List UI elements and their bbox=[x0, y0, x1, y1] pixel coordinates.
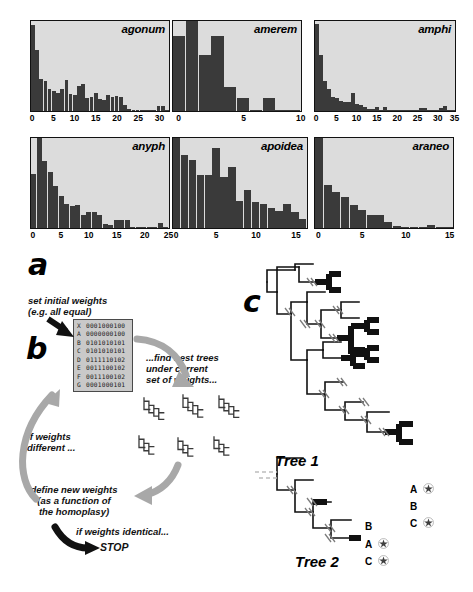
star-icon-tree1-A bbox=[423, 483, 434, 494]
histogram-bar bbox=[399, 110, 403, 111]
histogram-bar bbox=[250, 110, 262, 111]
x-axis-araneo: 051015 bbox=[314, 229, 454, 243]
histogram-bar bbox=[341, 197, 349, 228]
histogram-bar bbox=[367, 215, 375, 228]
axis-tick-label: 20 bbox=[392, 113, 401, 123]
histogram-bar bbox=[315, 138, 323, 228]
plot-area-apoidea: apoidea bbox=[172, 137, 308, 229]
histogram-bar bbox=[410, 227, 418, 228]
histogram-bar bbox=[64, 204, 69, 228]
histogram-bar bbox=[59, 196, 64, 228]
histogram-bar bbox=[48, 89, 52, 111]
histogram-bar bbox=[140, 110, 144, 111]
histogram-bar bbox=[31, 25, 35, 111]
axis-tick-label: 5 bbox=[51, 113, 56, 123]
star-icon-tree2-C bbox=[378, 555, 389, 566]
histogram-bar bbox=[335, 98, 339, 112]
histogram-bar bbox=[127, 109, 131, 111]
x-axis-agonum: 051015202530 bbox=[30, 112, 170, 126]
histogram-bar bbox=[108, 225, 113, 228]
histogram-bar bbox=[147, 227, 152, 228]
histogram-bar bbox=[173, 36, 185, 111]
histogram-bar bbox=[158, 223, 163, 228]
histogram-bar bbox=[132, 110, 136, 111]
histogram-bar bbox=[299, 219, 306, 228]
tree2-gray-branches bbox=[255, 472, 277, 478]
histogram-bar bbox=[69, 94, 73, 111]
histogram-bar bbox=[125, 220, 130, 228]
histogram-bar bbox=[211, 36, 223, 111]
histogram-bar bbox=[212, 148, 219, 228]
tree1-taxon-C: C bbox=[410, 518, 417, 529]
histogram-amphi: amphi 05101520253035 bbox=[314, 20, 456, 126]
histogram-bar bbox=[435, 110, 439, 111]
histogram-bar bbox=[56, 93, 60, 111]
histogram-araneo: araneo 051015 bbox=[314, 137, 454, 243]
axis-tick-label: 0 bbox=[174, 230, 179, 240]
histogram-bar bbox=[339, 101, 343, 111]
histogram-bar bbox=[197, 175, 204, 228]
histogram-bar bbox=[161, 106, 165, 111]
histogram-bar bbox=[387, 110, 391, 111]
histogram-bar bbox=[73, 95, 77, 111]
histogram-bar bbox=[53, 186, 58, 228]
axis-tick-label: 0 bbox=[30, 230, 35, 240]
histogram-bar bbox=[106, 95, 110, 111]
tree2-taxon-B: B bbox=[365, 521, 372, 532]
x-axis-amerem: 0510 bbox=[172, 112, 302, 126]
histogram-title-amphi: amphi bbox=[418, 23, 451, 35]
histogram-title-amerem: amerem bbox=[254, 23, 297, 35]
histogram-bar bbox=[419, 108, 423, 111]
histogram-bar bbox=[350, 205, 358, 228]
histogram-bar bbox=[97, 215, 102, 228]
histogram-bar bbox=[86, 212, 91, 228]
plot-area-amphi: amphi bbox=[314, 20, 456, 112]
star-icon-tree2-A bbox=[378, 538, 389, 549]
histogram-bar bbox=[263, 98, 275, 112]
histogram-bar bbox=[268, 208, 275, 228]
histogram-title-anyph: anyph bbox=[132, 140, 165, 152]
axis-tick-label: 10 bbox=[352, 113, 361, 123]
x-axis-amphi: 05101520253035 bbox=[314, 112, 456, 126]
histogram-bar bbox=[114, 220, 119, 228]
histogram-title-apoidea: apoidea bbox=[261, 140, 303, 152]
axis-tick-label: 15 bbox=[291, 230, 300, 240]
axis-tick-label: 5 bbox=[214, 230, 219, 240]
histogram-bar bbox=[44, 81, 48, 111]
histogram-bar bbox=[136, 110, 140, 111]
histogram-bar bbox=[189, 160, 196, 228]
axis-tick-label: 0 bbox=[30, 113, 35, 123]
axis-tick-label: 0 bbox=[176, 113, 181, 123]
axis-tick-label: 10 bbox=[70, 113, 79, 123]
arrow-newweights-to-matrix bbox=[23, 389, 60, 499]
arrow-matrix-to-search bbox=[137, 339, 194, 387]
histogram-bar bbox=[65, 80, 69, 112]
histogram-bar bbox=[331, 97, 335, 111]
histogram-bar bbox=[31, 174, 36, 228]
histogram-bar bbox=[427, 225, 435, 228]
histogram-bar bbox=[315, 24, 319, 111]
histogram-bar bbox=[111, 97, 115, 111]
histogram-bar bbox=[98, 99, 102, 111]
axis-tick-label: 15 bbox=[372, 113, 381, 123]
histogram-bar bbox=[152, 227, 157, 228]
histogram-bar bbox=[319, 55, 323, 111]
histogram-bar bbox=[39, 79, 43, 111]
histogram-bar bbox=[444, 227, 452, 228]
axis-tick-label: 5 bbox=[241, 113, 246, 123]
histogram-bar bbox=[37, 138, 42, 228]
histogram-bar bbox=[163, 227, 168, 228]
axis-tick-label: 5 bbox=[334, 113, 339, 123]
histogram-bar bbox=[119, 220, 124, 228]
histogram-bar bbox=[384, 222, 392, 228]
axis-tick-label: 10 bbox=[401, 230, 410, 240]
axis-tick-label: 25 bbox=[133, 113, 142, 123]
histogram-agonum: agonum 051015202530 bbox=[30, 20, 170, 126]
tree1-taxon-B: B bbox=[410, 501, 417, 512]
histogram-bar bbox=[367, 109, 371, 111]
histogram-bar bbox=[77, 86, 81, 111]
axis-tick-label: 10 bbox=[296, 113, 305, 123]
histogram-bar bbox=[52, 91, 56, 111]
x-axis-apoidea: 051015 bbox=[172, 229, 308, 243]
plot-area-anyph: anyph bbox=[30, 137, 170, 229]
